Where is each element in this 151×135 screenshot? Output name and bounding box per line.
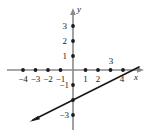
y-tick-dot-neg1 — [71, 83, 75, 87]
x-tick-label-neg2: −2 — [43, 74, 53, 84]
x-tick-label-pos2: 2 — [96, 74, 101, 84]
x-tick-dot-neg3 — [34, 68, 38, 72]
x-tick-dot-neg2 — [46, 68, 50, 72]
y-tick-dot-pos2 — [71, 39, 75, 43]
y-tick-label-neg1: −1 — [59, 80, 69, 90]
x-tick-label-pos3: 3 — [109, 56, 114, 66]
x-axis-label: x — [133, 72, 138, 82]
y-tick-dot-pos1 — [71, 54, 75, 58]
y-tick-label-pos1: 1 — [63, 51, 68, 61]
y-axis-arrowhead — [70, 8, 76, 15]
y-tick-label-pos3: 3 — [63, 21, 68, 31]
y-tick-dot-pos3 — [71, 24, 75, 28]
y-tick-label-neg3: −3 — [59, 110, 69, 120]
x-tick-label-neg3: −3 — [31, 74, 41, 84]
x-tick-dot-pos2 — [96, 68, 100, 72]
x-tick-label-pos1: 1 — [83, 74, 88, 84]
plotted-line-arrowhead-start — [30, 116, 41, 122]
y-tick-label-pos2: 2 — [63, 36, 68, 46]
x-tick-dot-neg1 — [59, 68, 63, 72]
y-tick-dot-neg3 — [71, 113, 75, 117]
graph-canvas: −4 −3 −2 −1 1 2 3 4 3 2 1 −1 −3 y x — [0, 0, 151, 135]
x-tick-dot-pos1 — [84, 68, 88, 72]
x-tick-dot-neg4 — [21, 68, 25, 72]
x-tick-dot-pos3 — [109, 68, 113, 72]
coordinate-plane-figure: −4 −3 −2 −1 1 2 3 4 3 2 1 −1 −3 y x — [0, 0, 151, 135]
x-tick-label-neg4: −4 — [18, 74, 28, 84]
x-tick-label-pos4: 4 — [120, 74, 125, 84]
x-tick-dot-pos4 — [121, 68, 125, 72]
y-axis-label: y — [76, 4, 81, 14]
